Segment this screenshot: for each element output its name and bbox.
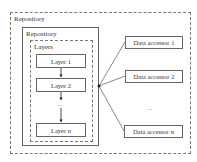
link-accessor-2	[99, 76, 125, 86]
link-accessor-1	[99, 42, 125, 86]
connector-lines	[0, 0, 197, 162]
junction-dot	[98, 85, 101, 88]
link-accessor-n	[99, 86, 124, 131]
accessor-links	[99, 42, 125, 131]
